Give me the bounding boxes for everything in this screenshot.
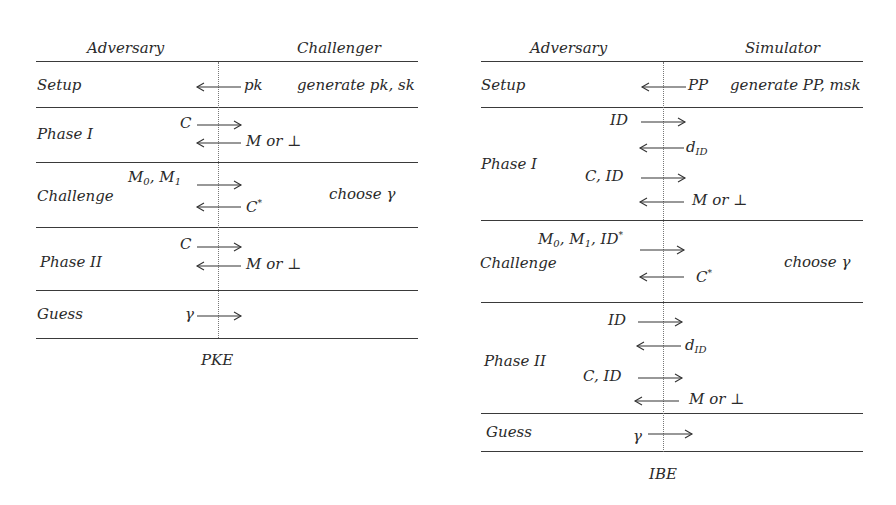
phase-label-guess: Guess [486,425,532,440]
msg-id: ID [610,113,628,128]
phase-label-phase-1: Phase I [481,157,537,172]
divider [481,61,863,62]
arrow-right-icon [638,317,684,327]
msg-c-star: C* [696,269,712,285]
caption-ibe: IBE [649,467,677,482]
arrow-right-icon [641,173,687,183]
msg-id: ID [608,313,626,328]
msg-gamma: γ [633,429,642,444]
header-adversary: Adversary [530,41,607,56]
note-choose-gamma: choose γ [784,255,850,270]
arrow-left-icon [635,341,681,351]
arrow-right-icon [641,117,687,127]
phase-label-setup: Setup [481,78,525,93]
arrow-right-icon [648,429,694,439]
msg-c-id: C, ID [583,369,621,384]
phase-label-challenge: Challenge [480,256,557,271]
divider [481,413,863,414]
arrow-left-icon [633,396,679,406]
ibe-diagram: Adversary Simulator Setup PP generate PP… [0,0,896,505]
msg-c-id: C, ID [585,169,623,184]
arrow-left-icon [638,197,684,207]
msg-pp: PP [688,78,708,93]
divider [481,302,863,303]
msg-m0-m1-id-star: M0, M1, ID* [538,231,623,249]
note-generate: generate PP, msk [730,78,861,93]
arrow-right-icon [640,245,686,255]
divider [481,107,863,108]
msg-m-or-bottom: M or ⊥ [689,392,744,407]
arrow-left-icon [640,82,686,92]
header-simulator: Simulator [745,41,820,56]
divider [481,451,863,452]
msg-d-id: dID [686,140,708,157]
msg-m-or-bottom: M or ⊥ [692,193,747,208]
arrow-left-icon [638,272,684,282]
arrow-right-icon [638,373,684,383]
msg-d-id: dID [685,338,707,355]
arrow-left-icon [638,143,684,153]
divider [481,220,863,221]
phase-label-phase-2: Phase II [484,354,546,369]
